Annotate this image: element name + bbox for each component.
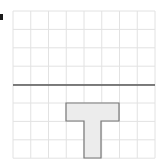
t-shape [66, 103, 119, 158]
grid-diagram [0, 0, 162, 166]
